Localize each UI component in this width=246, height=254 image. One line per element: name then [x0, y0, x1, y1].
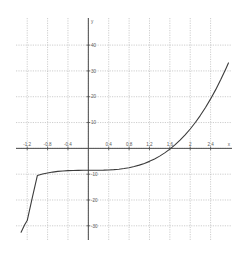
x-tick-label: -0.4: [64, 142, 72, 147]
plot-background: [0, 0, 246, 254]
plot-svg: -1.2-0.8-0.40.40.81.21.622.440302010-10-…: [0, 0, 246, 254]
y-tick-label: 40: [91, 43, 97, 48]
x-tick-label: 2.4: [207, 142, 214, 147]
y-tick-label: -20: [91, 198, 98, 203]
x-tick-label: 1.2: [146, 142, 153, 147]
y-tick-label: 10: [91, 120, 97, 125]
cubic-function-plot: -1.2-0.8-0.40.40.81.21.622.440302010-10-…: [0, 0, 246, 254]
y-tick-label: 20: [91, 94, 97, 99]
x-tick-label: 0.8: [126, 142, 133, 147]
x-tick-label: 0.4: [106, 142, 113, 147]
x-tick-label: 1.6: [167, 142, 174, 147]
x-tick-label: -1.2: [23, 142, 31, 147]
y-tick-label: -30: [91, 224, 98, 229]
y-tick-label: -10: [91, 172, 98, 177]
x-tick-label: 2: [189, 142, 192, 147]
y-tick-label: 30: [91, 69, 97, 74]
x-tick-label: -0.8: [44, 142, 52, 147]
